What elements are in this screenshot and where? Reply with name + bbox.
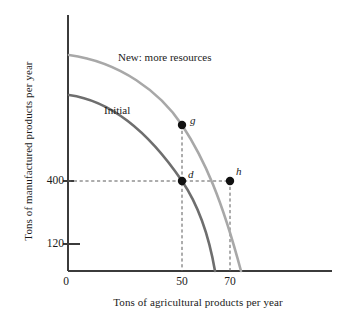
y-axis-title: Tons of manufactured products per year <box>22 41 34 261</box>
x-axis-title: Tons of agricultural products per year <box>62 296 334 308</box>
data-point-d <box>178 177 186 185</box>
x-tick-label-0: 0 <box>58 275 74 287</box>
data-point-g <box>178 121 186 129</box>
x-tick-label-70: 70 <box>222 275 238 287</box>
chart-plot-area <box>0 0 340 320</box>
ppf-chart-figure: Tons of manufactured products per year T… <box>0 0 340 320</box>
y-tick-label-120: 120 <box>40 237 64 249</box>
data-point-h <box>226 177 234 185</box>
point-label-h: h <box>236 165 242 177</box>
point-label-g: g <box>190 114 196 126</box>
curve-label-initial: Initial <box>104 104 130 116</box>
curve-label-new: New: more resources <box>118 51 211 63</box>
x-tick-label-50: 50 <box>174 275 190 287</box>
curve-new-more-resources <box>69 55 241 271</box>
point-label-d: d <box>188 168 194 180</box>
y-tick-label-400: 400 <box>40 174 64 186</box>
